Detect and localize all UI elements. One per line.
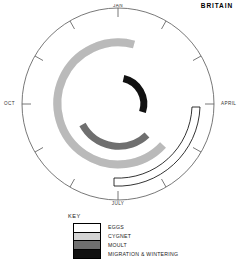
outer-circle: [22, 8, 214, 200]
month-label-oct: OCT: [4, 101, 15, 106]
annual-cycle-diagram: JAN APRIL JULY OCT: [0, 4, 237, 209]
month-ticks: [22, 8, 214, 200]
legend-label-moult: MOULT: [108, 241, 233, 250]
legend: KEY EGGS CYGNET MOULT MIGRATION & WINTER…: [0, 210, 237, 269]
legend-title: KEY: [68, 213, 81, 219]
month-label-jan: JAN: [113, 4, 123, 8]
cycle-arcs: [57, 42, 200, 186]
legend-swatch-eggs: [74, 224, 100, 233]
arc-migration-wintering: [124, 79, 144, 113]
month-label-april: APRIL: [221, 101, 236, 106]
legend-label-column: EGGS CYGNET MOULT MIGRATION & WINTERING: [108, 223, 233, 259]
legend-swatch-column: [73, 223, 101, 259]
month-label-july: JULY: [112, 201, 125, 206]
legend-label-migration-wintering: MIGRATION & WINTERING: [108, 250, 233, 259]
legend-label-cygnet: CYGNET: [108, 232, 233, 241]
legend-swatch-moult: [74, 241, 100, 250]
legend-label-eggs: EGGS: [108, 223, 233, 232]
arc-moult: [83, 125, 148, 147]
legend-swatch-cygnet: [74, 233, 100, 242]
legend-swatch-migration-wintering: [74, 250, 100, 259]
